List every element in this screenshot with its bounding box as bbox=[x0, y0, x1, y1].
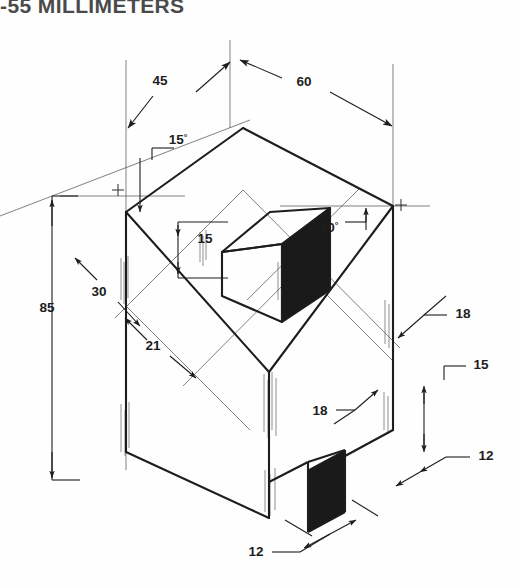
dimension-label-21: 21 bbox=[145, 338, 161, 353]
dimension-label-15-block: 15 bbox=[197, 231, 213, 246]
dimension-label-12-right: 12 bbox=[478, 448, 493, 463]
dimension-label-18-upper: 18 bbox=[455, 306, 471, 321]
dimension-label-60: 60 bbox=[296, 74, 311, 89]
dimension-label-85: 85 bbox=[39, 300, 55, 315]
isometric-drawing-svg: 45 60 15° 30° 15 30 21 85 18 15 18 12 12 bbox=[0, 0, 519, 586]
cross-left-icon bbox=[112, 184, 124, 196]
raised-block bbox=[222, 208, 330, 322]
dimension-label-15-notch: 15 bbox=[473, 357, 489, 372]
cross-right-icon bbox=[395, 199, 407, 211]
dimension-label-30: 30 bbox=[91, 284, 106, 299]
solid-body bbox=[126, 128, 393, 518]
dimension-label-18-front: 18 bbox=[312, 403, 328, 418]
dimension-label-45: 45 bbox=[152, 73, 168, 88]
notch-cutout bbox=[269, 450, 345, 532]
dimension-lines bbox=[52, 60, 470, 552]
drawing-canvas: -55 MILLIMETERS bbox=[0, 0, 519, 586]
dimension-label-30deg: 30° bbox=[320, 220, 339, 235]
dimension-label-12-bottom: 12 bbox=[248, 544, 263, 559]
